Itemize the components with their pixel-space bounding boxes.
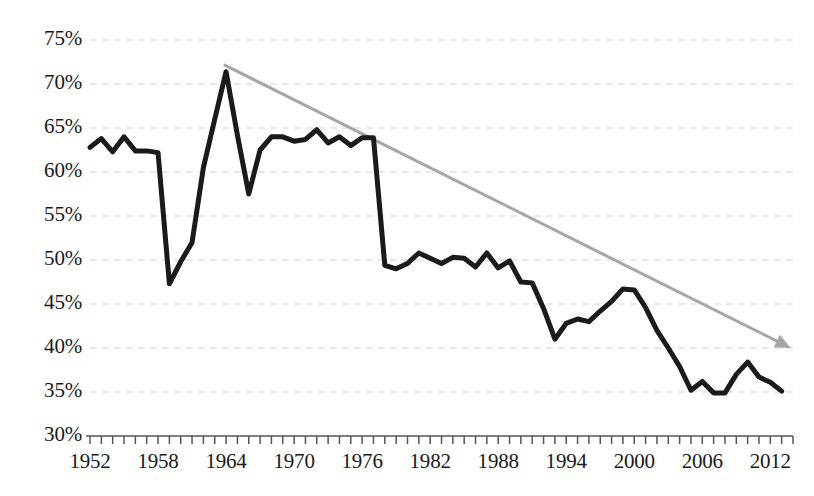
- y-axis-tick-label: 30%: [0, 422, 82, 447]
- y-axis-tick-label: 60%: [0, 158, 82, 183]
- trend-arrow: [224, 65, 791, 348]
- chart-container: 30%35%40%45%50%55%60%65%70%75% 195219581…: [0, 0, 814, 496]
- y-axis-tick-label: 65%: [0, 114, 82, 139]
- y-axis-tick-label: 50%: [0, 246, 82, 271]
- data-line-series-1: [90, 72, 782, 393]
- y-axis-tick-label: 75%: [0, 26, 82, 51]
- y-axis-tick-label: 40%: [0, 334, 82, 359]
- y-axis-tick-label: 35%: [0, 378, 82, 403]
- x-axis-tick-label: 2012: [720, 449, 814, 474]
- chart-plot-area: [0, 0, 814, 496]
- y-axis-tick-label: 70%: [0, 70, 82, 95]
- x-axis-ticks: [90, 436, 793, 444]
- trend-arrow-shaft: [224, 65, 780, 343]
- data-line: [90, 72, 782, 393]
- y-axis-tick-label: 55%: [0, 202, 82, 227]
- y-axis-tick-label: 45%: [0, 290, 82, 315]
